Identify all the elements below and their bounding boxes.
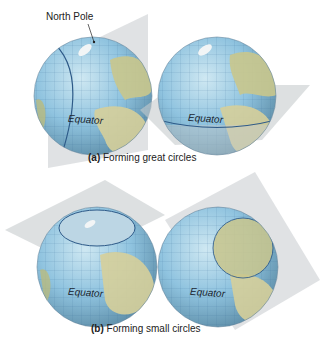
caption-letter: (b)	[91, 323, 104, 334]
great-small-circles-diagram	[0, 0, 327, 345]
caption-text: Forming small circles	[107, 323, 201, 334]
globe-equator-plane	[150, 30, 290, 165]
caption-text: Forming great circles	[103, 152, 196, 163]
equator-label: Equator	[68, 286, 104, 299]
north-pole-label: North Pole	[46, 11, 93, 22]
equator-label: Equator	[188, 112, 224, 125]
equator-label: Equator	[190, 286, 226, 299]
equator-label: Equator	[68, 113, 104, 126]
caption-a: (a) Forming great circles	[88, 152, 196, 163]
caption-letter: (a)	[88, 152, 100, 163]
caption-b: (b) Forming small circles	[91, 323, 200, 334]
